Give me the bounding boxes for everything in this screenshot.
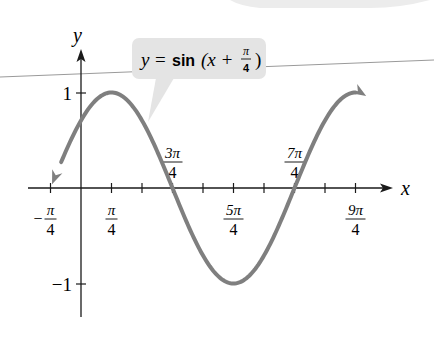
equation-func: sin [172, 52, 195, 69]
top-decoration [230, 0, 430, 8]
equation-open: (x + [201, 49, 233, 71]
svg-text:4: 4 [108, 221, 116, 238]
x-tick-label: π4 [106, 202, 118, 238]
y-axis-label: y [71, 24, 82, 47]
x-tick-label: 5π4 [224, 202, 244, 238]
equation-lhs: y [139, 49, 150, 70]
svg-text:−: − [33, 210, 42, 227]
sine-graph: y = sin (x + π 4 ) x y π4−π43π45π47π49π4… [0, 0, 434, 339]
equation-frac-den: 4 [243, 62, 250, 74]
svg-text:π: π [47, 202, 55, 218]
svg-text:3π: 3π [164, 145, 181, 161]
axes [28, 56, 386, 317]
svg-text:7π: 7π [287, 145, 303, 161]
curve-left-arrow-icon [52, 169, 62, 184]
svg-text:4: 4 [47, 221, 55, 238]
x-tick-label: π4− [33, 202, 56, 238]
equation-close: ) [255, 49, 261, 71]
tick-labels: π4−π43π45π47π49π4 [33, 145, 365, 238]
y-tick-label-1: 1 [63, 83, 73, 104]
svg-text:π: π [108, 202, 116, 218]
y-tick-label-neg1: −1 [52, 274, 72, 295]
svg-text:4: 4 [230, 221, 238, 238]
x-tick-label: 9π4 [346, 202, 366, 238]
equation-frac-num: π [243, 44, 250, 58]
svg-text:5π: 5π [226, 202, 242, 218]
x-axis-label: x [400, 177, 410, 199]
equation-equals: = [155, 49, 166, 70]
svg-text:9π: 9π [348, 202, 364, 218]
callout-pointer [148, 78, 174, 122]
equation-callout: y = sin (x + π 4 ) [132, 38, 266, 122]
svg-text:4: 4 [352, 221, 360, 238]
